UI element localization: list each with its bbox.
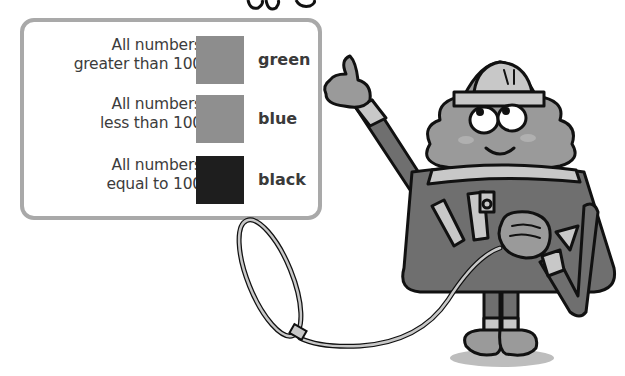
character-illustration — [0, 0, 625, 376]
